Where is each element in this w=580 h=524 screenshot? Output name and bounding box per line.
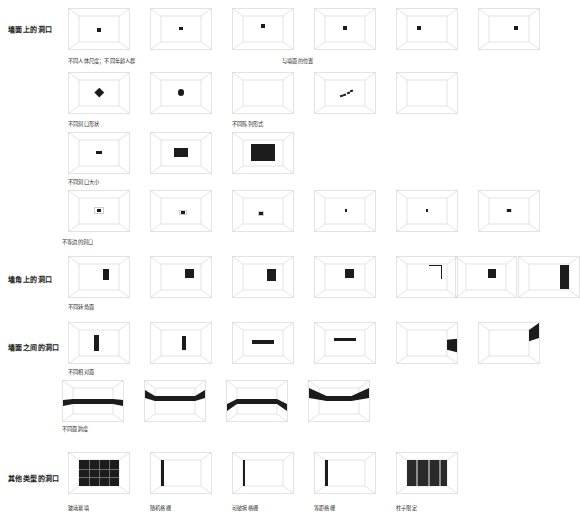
diagram-tile-row-other-4: [396, 452, 458, 494]
diagram-tile-row-size-1: [150, 132, 212, 174]
column-0: [416, 460, 418, 486]
span-opening: [144, 380, 206, 422]
opening-art: [396, 452, 458, 494]
opening-art: [232, 190, 294, 232]
opening-art: [396, 8, 458, 50]
caption-row-span: 不同面跨度: [62, 425, 88, 432]
columns-panel: [407, 460, 447, 486]
grille-bar-16: [161, 460, 164, 486]
diagram-tile-row-size-0: [68, 132, 130, 174]
diagram-tile-row-corner-faces-3: [314, 256, 376, 298]
tile-caption-4: 柱子限定: [396, 504, 417, 511]
vertical-opening: [94, 335, 98, 351]
caption-row-shape-pattern: 不同洞口形状: [68, 120, 99, 127]
opening-art: [518, 256, 580, 298]
diagram-tile-row-opposite-faces-4: [396, 322, 458, 364]
diagram-tile-row-asymmetric-4: [396, 190, 458, 232]
diagram-tile-row-asymmetric-2: [232, 190, 294, 232]
column-1: [428, 460, 430, 486]
opening-rect: [96, 151, 102, 154]
opening-art: [232, 72, 294, 114]
opening-art: [150, 452, 212, 494]
opening-art: [68, 452, 130, 494]
mullion-h: [79, 477, 119, 478]
opening-art: [314, 8, 376, 50]
corner-opening: [345, 269, 354, 278]
diagram-tile-row-opposite-faces-5: [478, 322, 540, 364]
opening-dot-2: [346, 92, 349, 95]
diagram-tile-row-shape-pattern-1: [150, 72, 212, 114]
diagram-tile-row-span-3: [308, 380, 370, 422]
opening-diamond: [94, 88, 103, 97]
tile-caption-3: 等距格栅: [314, 504, 335, 511]
grille-bar-7: [325, 460, 328, 486]
opening-art: [308, 380, 370, 422]
diagram-tile-row-human-scale-2: [232, 8, 294, 50]
diagram-tile-row-span-2: [226, 380, 288, 422]
opening-art: [150, 8, 212, 50]
tile-caption-0: 玻璃幕墙: [68, 504, 89, 511]
opening-art: [314, 322, 376, 364]
opening-art: [150, 72, 212, 114]
diagram-tile-row-opposite-faces-1: [150, 322, 212, 364]
diagram-tile-row-other-0: [68, 452, 130, 494]
diagram-tile-row-asymmetric-3: [314, 190, 376, 232]
diagram-tile-row-asymmetric-1: [150, 190, 212, 232]
diagram-tile-row-other-1: [150, 452, 212, 494]
tile-caption-1: 随机格栅: [150, 504, 171, 511]
opening-art: [232, 322, 294, 364]
section-label-wall-openings: 墙面上的洞口: [8, 24, 52, 34]
opening-art: [150, 132, 212, 174]
diagram-tile-row-corner-faces-2: [232, 256, 294, 298]
opening-art: [314, 256, 376, 298]
opening-art: [314, 452, 376, 494]
vertical-opening: [182, 336, 186, 350]
diagram-tile-row-shape-pattern-3: [314, 72, 376, 114]
opening-dot-1: [343, 93, 346, 96]
mullion-h: [79, 469, 119, 470]
span-opening: [62, 380, 124, 422]
opening-art: [232, 256, 294, 298]
opening-dot: [417, 26, 421, 30]
opening-art: [68, 190, 130, 232]
opening-dot: [507, 209, 510, 212]
opening-art: [396, 256, 458, 298]
diagram-tile-row-corner-faces-6: [518, 256, 580, 298]
diagram-tile-row-asymmetric-0: [68, 190, 130, 232]
opening-bars: [423, 88, 431, 97]
opening-dot: [345, 209, 347, 211]
grille-bar-8: [243, 460, 245, 486]
opening-art: [144, 380, 206, 422]
horizontal-opening: [334, 338, 355, 341]
opening-art: [455, 256, 517, 298]
diagram-tile-row-asymmetric-5: [478, 190, 540, 232]
diagram-tile-row-other-3: [314, 452, 376, 494]
opening-art: [68, 72, 130, 114]
section-label-corner-openings: 墙角上的洞口: [8, 274, 52, 284]
diagram-tile-row-size-2: [232, 132, 294, 174]
diagram-tile-row-human-scale-1: [150, 8, 212, 50]
opening-art: [150, 190, 212, 232]
caption-row-asymmetric: 不等边的洞口: [62, 238, 93, 245]
diagram-tile-row-opposite-faces-3: [314, 322, 376, 364]
grille-random-panel: [161, 460, 201, 486]
diagram-tile-row-corner-faces-0: [68, 256, 130, 298]
span-opening: [226, 380, 288, 422]
mullion-v: [109, 460, 110, 486]
corner-opening: [488, 269, 496, 278]
diagram-tile-row-corner-faces-1: [150, 256, 212, 298]
diagram-tile-row-shape-pattern-2: [232, 72, 294, 114]
corner-opening: [185, 269, 194, 278]
opening-dot: [426, 209, 428, 211]
diagram-tile-row-opposite-faces-0: [68, 322, 130, 364]
diagram-tile-row-corner-faces-4: [396, 256, 458, 298]
corner-hook: [429, 265, 442, 279]
diagram-tile-row-human-scale-4: [396, 8, 458, 50]
diagram-tile-row-shape-pattern-0: [68, 72, 130, 114]
opening-art: [62, 380, 124, 422]
side-wedge-top-opening: [478, 322, 540, 364]
diagram-tile-row-span-1: [144, 380, 206, 422]
corner-opening: [103, 269, 109, 281]
diagram-tile-row-other-2: [232, 452, 294, 494]
